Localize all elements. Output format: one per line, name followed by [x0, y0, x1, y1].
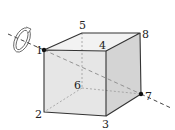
vertex-label-2: 2 [35, 108, 42, 121]
vertex-label-4: 4 [99, 39, 106, 52]
vertex-label-1: 1 [36, 44, 43, 57]
vertex-label-5: 5 [79, 19, 86, 32]
cube-svg: 1 2 3 4 5 6 7 8 [0, 0, 175, 130]
vertex-label-6: 6 [74, 79, 81, 92]
vertex-label-7: 7 [145, 90, 152, 103]
vertex-7-dot [139, 92, 143, 96]
vertex-label-8: 8 [142, 28, 149, 41]
vertex-label-3: 3 [102, 118, 109, 130]
cube-diagram: 1 2 3 4 5 6 7 8 [0, 0, 175, 130]
